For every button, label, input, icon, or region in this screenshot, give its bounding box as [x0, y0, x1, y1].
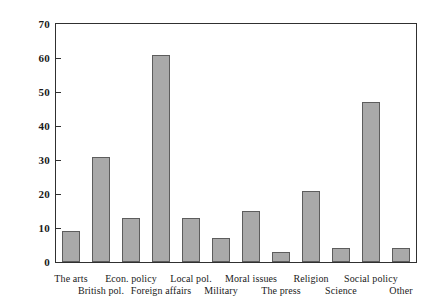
x-axis-tick-label: British pol.	[78, 285, 124, 296]
x-axis-tick-label: Econ. policy	[105, 273, 157, 284]
x-axis: The artsBritish pol.Econ. policyForeign …	[0, 0, 436, 304]
x-axis-tick-label: Military	[204, 285, 238, 296]
x-axis-tick-label: Other	[389, 285, 412, 296]
x-axis-tick-label: Moral issues	[225, 273, 277, 284]
x-axis-tick-label: Local pol.	[170, 273, 212, 284]
x-axis-tick-label: The arts	[54, 273, 87, 284]
x-axis-tick-label: Science	[325, 285, 357, 296]
x-axis-tick-label: Foreign affairs	[131, 285, 191, 296]
bar-chart-figure: 010203040506070 The artsBritish pol.Econ…	[0, 0, 436, 304]
x-axis-tick-label: The press	[261, 285, 301, 296]
x-axis-tick-label: Social policy	[344, 273, 398, 284]
x-axis-tick-label: Religion	[293, 273, 328, 284]
